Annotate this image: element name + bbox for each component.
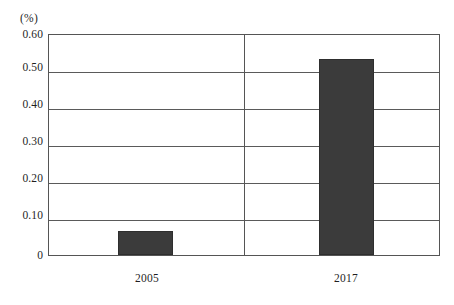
panel-divider	[244, 35, 245, 255]
x-tick-label-2005: 2005	[97, 272, 197, 285]
y-axis-unit-label: (%)	[8, 12, 50, 25]
bar-2017	[319, 59, 374, 255]
bar-chart: (%) 0.60 0.50 0.40 0.30 0.20 0.10 0 2005…	[0, 0, 454, 305]
y-tick-label-030: 0.30	[0, 135, 43, 147]
y-tick-label-040: 0.40	[0, 98, 43, 110]
y-tick-label-010: 0.10	[0, 209, 43, 221]
y-tick-label-050: 0.50	[0, 61, 43, 73]
y-tick-label-000: 0	[0, 249, 43, 261]
bar-2005	[118, 231, 173, 255]
plot-area	[48, 34, 440, 256]
y-tick-label-020: 0.20	[0, 172, 43, 184]
y-tick-label-060: 0.60	[0, 28, 43, 40]
x-tick-label-2017: 2017	[296, 272, 396, 285]
